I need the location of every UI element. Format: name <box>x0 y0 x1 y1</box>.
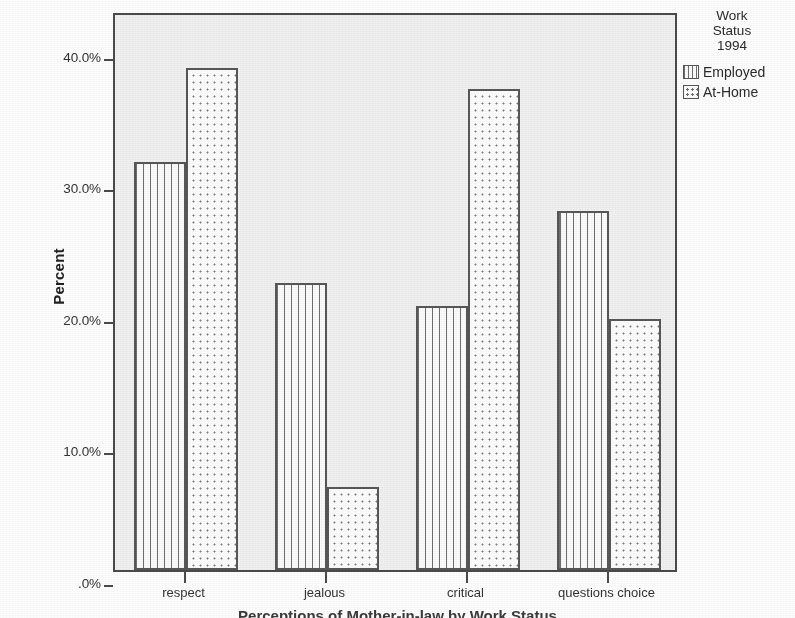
y-tick-mark <box>104 453 113 455</box>
bar-chart: Percent 40.0%30.0%20.0%10.0%.0% respectj… <box>0 0 795 618</box>
y-tick-mark <box>104 585 113 587</box>
x-tick-mark <box>325 572 327 583</box>
y-tick-label: 20.0% <box>63 313 101 328</box>
y-tick-label: 40.0% <box>63 50 101 65</box>
legend-title: Work Status 1994 <box>683 8 795 53</box>
vertical-lines-swatch <box>683 65 699 79</box>
legend-title-line-2: Status <box>683 23 781 38</box>
legend-title-line-1: Work <box>683 8 781 23</box>
x-tick-mark <box>607 572 609 583</box>
y-tick-label: 30.0% <box>63 181 101 196</box>
x-tick-mark <box>184 572 186 583</box>
dotted-swatch <box>683 85 699 99</box>
plot-area <box>113 13 677 572</box>
legend-items: EmployedAt-Home <box>683 62 795 101</box>
bar-critical-employed <box>416 306 468 570</box>
legend-item-at-home: At-Home <box>683 82 795 101</box>
y-axis: Percent 40.0%30.0%20.0%10.0%.0% <box>0 13 113 572</box>
y-tick-mark <box>104 59 113 61</box>
x-tick-label: questions choice <box>558 585 655 600</box>
y-tick-label: .0% <box>78 576 101 591</box>
x-tick-label: jealous <box>304 585 345 600</box>
legend-title-line-3: 1994 <box>683 38 781 53</box>
bar-questions-choice-employed <box>557 211 609 570</box>
bars-container <box>115 15 675 570</box>
x-tick-mark <box>466 572 468 583</box>
x-tick-label: critical <box>447 585 484 600</box>
legend-item-employed: Employed <box>683 62 795 81</box>
bar-jealous-at-home <box>327 487 379 570</box>
y-tick-mark <box>104 322 113 324</box>
legend-item-label: Employed <box>703 64 765 80</box>
bar-critical-at-home <box>468 89 520 570</box>
bar-respect-employed <box>134 162 186 570</box>
y-tick-mark <box>104 190 113 192</box>
legend-item-label: At-Home <box>703 84 758 100</box>
chart-footer-title-clip: Perceptions of Mother-in-law by Work Sta… <box>0 607 795 618</box>
bar-respect-at-home <box>186 68 238 570</box>
legend: Work Status 1994 EmployedAt-Home <box>683 8 795 102</box>
x-tick-label: respect <box>162 585 205 600</box>
y-tick-label: 10.0% <box>63 444 101 459</box>
bar-questions-choice-at-home <box>609 319 661 570</box>
bar-jealous-employed <box>275 283 327 570</box>
chart-footer-title: Perceptions of Mother-in-law by Work Sta… <box>0 607 795 618</box>
